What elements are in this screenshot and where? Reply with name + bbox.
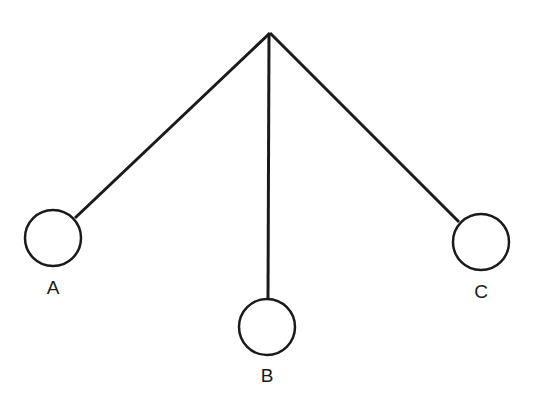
string-c: [270, 33, 459, 222]
label-c: C: [474, 281, 488, 302]
pendulum-b: B: [239, 33, 295, 386]
string-b: [268, 33, 269, 299]
pendulum-c: C: [270, 33, 509, 302]
pendulum-a: A: [25, 33, 270, 298]
bob-c: [453, 214, 509, 270]
label-b: B: [261, 365, 274, 386]
bob-a: [25, 210, 81, 266]
label-a: A: [47, 277, 60, 298]
pendulum-diagram: A B C: [0, 0, 536, 396]
string-a: [75, 33, 270, 218]
bob-b: [239, 299, 295, 355]
